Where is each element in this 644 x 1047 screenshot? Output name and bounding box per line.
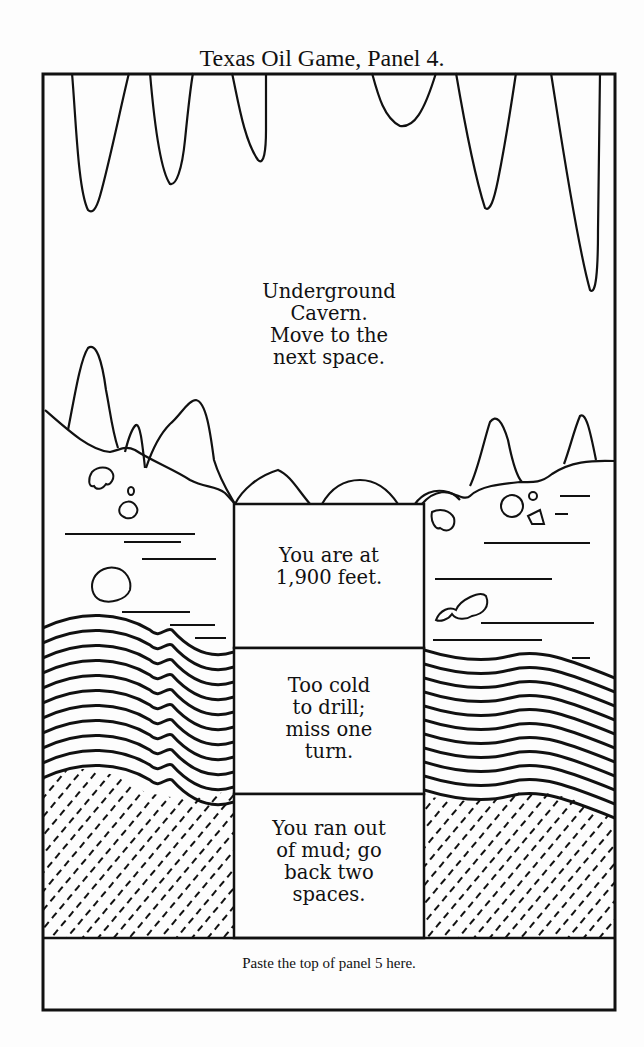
rock-layers-left-icon <box>43 615 234 938</box>
stalagmites-right-icon <box>415 415 615 504</box>
space-ran-out-of-mud: You ran out of mud; go back two spaces. <box>234 818 424 906</box>
rock-layers-right-icon <box>424 650 615 938</box>
paste-instruction: Paste the top of panel 5 here. <box>43 955 615 972</box>
space-depth-1900: You are at 1,900 feet. <box>234 545 424 589</box>
stalactites-icon <box>72 73 600 291</box>
space-underground-cavern: Underground Cavern. Move to the next spa… <box>234 281 424 369</box>
stalagmites-left-icon <box>45 347 398 504</box>
space-too-cold: Too cold to drill; miss one turn. <box>234 675 424 763</box>
